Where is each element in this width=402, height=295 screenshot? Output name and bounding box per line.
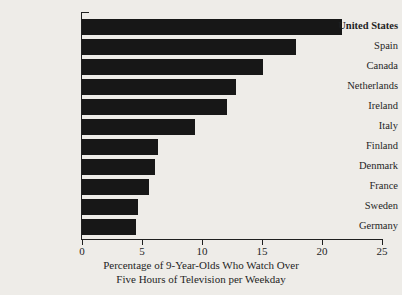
x-axis-tick-label: 10 [187,245,217,258]
bar [82,39,296,55]
category-label: Netherlands [322,80,402,92]
category-label: France [322,180,402,192]
category-label: Italy [322,120,402,132]
x-axis-tick-label: 15 [247,245,277,258]
category-label: Germany [322,220,402,232]
bar-chart: United StatesSpainCanadaNetherlandsIrela… [0,0,402,295]
bar [82,139,158,155]
bar [82,119,195,135]
bar [82,219,136,235]
bar [82,79,236,95]
x-axis-tick-label: 5 [127,245,157,258]
category-label: Denmark [322,160,402,172]
category-label: United States [322,20,402,32]
x-axis-tick-label: 20 [307,245,337,258]
x-axis-tick-label: 25 [367,245,397,258]
bar [82,59,263,75]
x-axis-title-line-2: Five Hours of Television per Weekday [0,272,402,286]
category-label: Canada [322,60,402,72]
bar [82,159,155,175]
x-axis-title-line-1: Percentage of 9-Year-Olds Who Watch Over [0,258,402,272]
x-axis-line [81,239,383,240]
category-label: Ireland [322,100,402,112]
y-axis-top-tick [82,12,89,13]
bar [82,199,138,215]
x-axis-tick-label: 0 [67,245,97,258]
category-label: Spain [322,40,402,52]
bar [82,19,342,35]
x-axis-title: Percentage of 9-Year-Olds Who Watch Over… [0,258,402,286]
category-label: Finland [322,140,402,152]
bar [82,99,227,115]
category-label: Sweden [322,200,402,212]
bar [82,179,149,195]
